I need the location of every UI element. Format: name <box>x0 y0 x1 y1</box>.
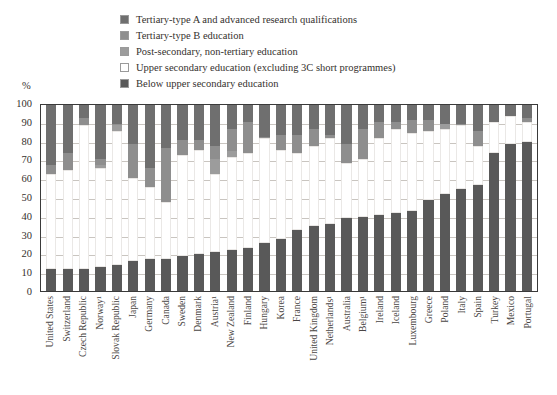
stacked-bar <box>423 105 433 291</box>
bar-segment-below_upper_secondary <box>358 217 368 291</box>
bar-slot <box>240 105 256 291</box>
x-label-slot: New Zealand <box>223 296 239 392</box>
bar-segment-upper_secondary <box>112 131 122 265</box>
bar-segment-tertiary_b <box>177 140 187 155</box>
bar-segment-tertiary_a <box>341 105 351 144</box>
bar-segment-below_upper_secondary <box>489 153 499 291</box>
bar-segment-upper_secondary <box>440 129 450 194</box>
x-axis-category-label: France <box>292 296 302 322</box>
x-label-slot: Korea <box>273 296 289 392</box>
legend-item: Tertiary-type B education <box>120 28 396 42</box>
bar-segment-below_upper_secondary <box>341 218 351 291</box>
bar-segment-tertiary_b <box>473 131 483 146</box>
bar-slot <box>322 105 338 291</box>
legend-item-label: Below upper secondary education <box>136 78 279 89</box>
bar-segment-below_upper_secondary <box>440 194 450 291</box>
bar-slot <box>502 105 518 291</box>
bar-segment-tertiary_a <box>440 105 450 124</box>
bar-segment-tertiary_a <box>79 105 89 118</box>
bar-slot <box>125 105 141 291</box>
x-label-slot: Canada <box>157 296 173 392</box>
bar-slot <box>59 105 75 291</box>
x-axis-category-label: Australia <box>342 296 352 331</box>
bar-segment-below_upper_secondary <box>95 267 105 291</box>
bar-slot <box>306 105 322 291</box>
x-label-slot: Germany <box>141 296 157 392</box>
bar-segment-tertiary_b <box>341 144 351 163</box>
y-axis-tick-label: 100 <box>16 99 32 109</box>
stacked-bar <box>95 105 105 291</box>
stacked-bar <box>473 105 483 291</box>
y-axis-tick-label: 90 <box>22 118 33 128</box>
bar-segment-tertiary_b <box>79 118 89 125</box>
legend-swatch-icon <box>120 15 129 24</box>
x-axis-category-label: Canada <box>161 296 171 325</box>
bar-segment-below_upper_secondary <box>505 144 515 291</box>
bar-segment-upper_secondary <box>407 133 417 211</box>
y-axis-unit-label: % <box>22 80 31 91</box>
bar-slot <box>76 105 92 291</box>
bar-series-container <box>41 105 537 291</box>
y-axis-tick-label: 20 <box>22 249 33 259</box>
bar-segment-upper_secondary <box>341 163 351 219</box>
bar-segment-upper_secondary <box>177 155 187 255</box>
bar-segment-tertiary_a <box>243 105 253 122</box>
legend-swatch-icon <box>120 47 129 56</box>
bar-segment-below_upper_secondary <box>473 185 483 291</box>
x-label-slot: Hungary <box>256 296 272 392</box>
x-label-slot: Ireland <box>371 296 387 392</box>
bar-segment-tertiary_a <box>391 105 401 122</box>
bar-segment-tertiary_a <box>522 105 532 118</box>
y-axis-tick-label: 30 <box>22 231 33 241</box>
x-label-slot: Portugal <box>520 296 536 392</box>
x-axis-category-label: Korea <box>276 296 286 319</box>
stacked-bar <box>79 105 89 291</box>
bar-slot <box>404 105 420 291</box>
bar-segment-below_upper_secondary <box>210 252 220 291</box>
legend-item-label: Upper secondary education (excluding 3C … <box>136 62 396 73</box>
bar-slot <box>338 105 354 291</box>
y-axis-tick-label: 50 <box>22 193 33 203</box>
bar-segment-upper_secondary <box>46 174 56 269</box>
stacked-bar <box>456 105 466 291</box>
x-label-slot: Czech Republic <box>75 296 91 392</box>
bar-segment-tertiary_a <box>276 105 286 135</box>
bar-segment-below_upper_secondary <box>374 215 384 291</box>
bar-segment-tertiary_b <box>46 165 56 174</box>
x-label-slot: Netherlands¹ <box>322 296 338 392</box>
bar-segment-tertiary_b <box>358 129 368 159</box>
bar-slot <box>470 105 486 291</box>
x-axis-category-label: Czech Republic <box>78 296 88 357</box>
y-axis-tick-label: 70 <box>22 155 33 165</box>
bar-segment-below_upper_secondary <box>194 254 204 291</box>
x-label-slot: United Kingdom <box>306 296 322 392</box>
y-axis-tick-label: 80 <box>22 137 33 147</box>
stacked-bar <box>161 105 171 291</box>
bar-segment-post_secondary <box>210 159 220 174</box>
bar-segment-tertiary_a <box>128 105 138 144</box>
bar-segment-upper_secondary <box>79 125 89 268</box>
bar-segment-upper_secondary <box>358 159 368 217</box>
bar-segment-tertiary_a <box>63 105 73 153</box>
x-axis-category-label: Austria¹ <box>210 296 220 327</box>
x-axis-category-label: Greece <box>424 296 434 323</box>
x-axis-category-label: Mexico <box>506 296 516 325</box>
bar-segment-tertiary_a <box>374 105 384 122</box>
bar-slot <box>174 105 190 291</box>
x-label-slot: Slovak Republic <box>108 296 124 392</box>
bar-segment-tertiary_b <box>243 122 253 154</box>
legend-item-label: Tertiary-type B education <box>136 30 244 41</box>
x-axis-category-label: Belgium¹ <box>358 296 368 332</box>
bar-slot <box>256 105 272 291</box>
bar-segment-below_upper_secondary <box>522 142 532 291</box>
x-label-slot: Iceland <box>388 296 404 392</box>
bar-segment-below_upper_secondary <box>259 243 269 291</box>
x-axis-category-label: Iceland <box>391 296 401 324</box>
bar-segment-upper_secondary <box>161 202 171 260</box>
bar-segment-tertiary_a <box>456 105 466 124</box>
bar-segment-tertiary_b <box>276 135 286 150</box>
bar-segment-tertiary_a <box>194 105 204 140</box>
bar-segment-below_upper_secondary <box>407 211 417 291</box>
stacked-bar <box>440 105 450 291</box>
x-label-slot: Spain <box>470 296 486 392</box>
